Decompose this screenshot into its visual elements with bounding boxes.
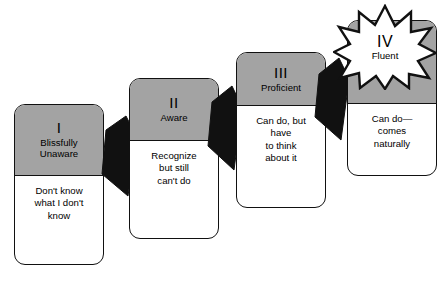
stage-1-header: I Blissfully Unaware	[15, 105, 103, 176]
starburst-icon	[333, 4, 437, 90]
stage-3-roman: III	[274, 65, 288, 82]
stage-4-description: Can do— comes naturally	[348, 104, 436, 176]
stage-box-1[interactable]: I Blissfully Unaware Don't know what I d…	[14, 104, 104, 265]
stage-3-description-text: Can do, but have to think about it	[256, 115, 306, 164]
stage-1-roman: I	[57, 120, 62, 137]
stage-2-description-text: Recognize but still can't do	[151, 150, 196, 187]
stage-2-roman: II	[169, 95, 178, 112]
stage-1-description: Don't know what I don't know	[15, 176, 103, 262]
stage-1-label: Blissfully Unaware	[40, 138, 78, 159]
stage-4-description-text: Can do— comes naturally	[372, 113, 413, 150]
starburst-badge: IV Fluent	[333, 4, 437, 90]
competence-stages-diagram: I Blissfully Unaware Don't know what I d…	[0, 0, 445, 282]
stage-1-description-text: Don't know what I don't know	[35, 185, 84, 222]
stage-3-label: Proficient	[261, 83, 301, 94]
stage-2-label: Aware	[160, 113, 187, 124]
